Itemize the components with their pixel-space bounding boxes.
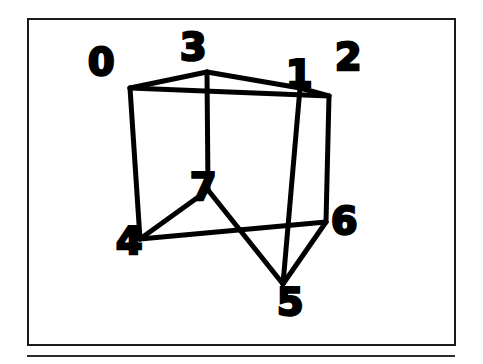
vertex-label-7: 7 <box>190 168 215 206</box>
vertex-label-1: 1 <box>286 55 311 93</box>
cube-edge-0-4 <box>130 88 140 239</box>
cube-edge-0-3 <box>130 72 207 88</box>
cube-edge-group <box>130 72 329 284</box>
vertex-label-0: 0 <box>88 43 113 81</box>
vertex-label-2: 2 <box>335 38 360 76</box>
cube-wireframe-drawing <box>0 0 483 364</box>
vertex-label-3: 3 <box>180 28 205 66</box>
cube-edge-2-6 <box>326 96 329 222</box>
vertex-label-5: 5 <box>277 283 302 321</box>
cube-edge-7-5 <box>208 190 283 284</box>
vertex-label-6: 6 <box>331 202 356 240</box>
cube-edge-1-5 <box>283 88 300 284</box>
vertex-label-4: 4 <box>116 222 141 260</box>
horizontal-rule <box>27 355 455 357</box>
figure-container: 01234567 <box>0 0 483 364</box>
